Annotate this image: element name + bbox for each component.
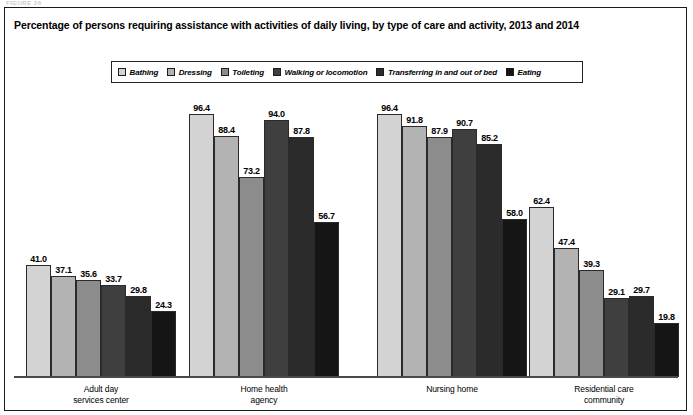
bar (76, 280, 101, 377)
bar (579, 270, 604, 377)
category-label-line: Adult day (31, 384, 171, 395)
bar (26, 265, 51, 377)
bar (427, 137, 452, 377)
bar-item: 94.0 (264, 92, 289, 377)
category-label-line: agency (194, 395, 334, 406)
bar-value-label: 96.4 (187, 103, 216, 113)
category-label-line: community (534, 395, 674, 406)
bar-item: 87.8 (289, 92, 314, 377)
bar-value-label: 41.0 (24, 254, 53, 264)
bar-value-label: 58.0 (500, 208, 529, 218)
bar-item: 62.4 (529, 92, 554, 377)
bar (529, 207, 554, 377)
bar-item: 29.7 (629, 92, 654, 377)
bar (604, 298, 629, 377)
legend-item: Walking or locomotion (273, 68, 367, 77)
bar-value-label: 62.4 (527, 196, 556, 206)
bar-item: 73.2 (239, 92, 264, 377)
bar (402, 126, 427, 377)
bar-item: 37.1 (51, 92, 76, 377)
figure-page: FIGURE 26 Percentage of persons requirin… (0, 0, 693, 415)
bar (452, 129, 477, 377)
bar-item: 87.9 (427, 92, 452, 377)
legend-item-label: Transferring in and out of bed (388, 68, 497, 77)
legend-item: Bathing (118, 68, 158, 77)
x-axis-line (14, 376, 678, 378)
bar-item: 56.7 (314, 92, 339, 377)
bar-item: 29.8 (126, 92, 151, 377)
bar-item: 39.3 (579, 92, 604, 377)
bar-value-label: 85.2 (475, 133, 504, 143)
bar (654, 323, 679, 377)
bar-value-label: 47.4 (552, 237, 581, 247)
bar (377, 114, 402, 377)
chart-plot-area: 41.037.135.633.729.824.396.488.473.294.0… (14, 92, 678, 377)
bar-item: 19.8 (654, 92, 679, 377)
bar-group: 41.037.135.633.729.824.3 (26, 92, 176, 377)
category-label: Home healthagency (194, 384, 334, 405)
bar-value-label: 39.3 (577, 259, 606, 269)
chart-legend: BathingDressingToiletingWalking or locom… (111, 61, 583, 83)
bar-value-label: 56.7 (312, 211, 341, 221)
bar-group: 96.488.473.294.087.856.7 (189, 92, 339, 377)
bar (289, 137, 314, 377)
bar (477, 144, 502, 377)
legend-swatch-icon (376, 68, 384, 76)
bar-item: 85.2 (477, 92, 502, 377)
bar (51, 276, 76, 377)
bar-value-label: 33.7 (99, 274, 128, 284)
bar (264, 120, 289, 377)
bar-item: 29.1 (604, 92, 629, 377)
legend-item: Eating (506, 68, 541, 77)
bar-value-label: 29.7 (627, 285, 656, 295)
legend-swatch-icon (273, 68, 281, 76)
legend-item-label: Dressing (179, 68, 212, 77)
bar-item: 58.0 (502, 92, 527, 377)
bar-item: 47.4 (554, 92, 579, 377)
bar-value-label: 19.8 (652, 312, 681, 322)
bar-value-label: 73.2 (237, 166, 266, 176)
bar-item: 88.4 (214, 92, 239, 377)
legend-swatch-icon (221, 68, 229, 76)
legend-item-label: Bathing (130, 68, 159, 77)
bar-value-label: 96.4 (375, 103, 404, 113)
bar (239, 177, 264, 377)
bar-value-label: 87.8 (287, 126, 316, 136)
bar (502, 219, 527, 377)
bar-item: 90.7 (452, 92, 477, 377)
category-label-line: services center (31, 395, 171, 406)
bar (214, 136, 239, 377)
bar-item: 96.4 (189, 92, 214, 377)
bar (101, 285, 126, 377)
bar-item: 24.3 (151, 92, 176, 377)
bar-item: 91.8 (402, 92, 427, 377)
legend-item-label: Toileting (232, 68, 264, 77)
category-label: Residential carecommunity (534, 384, 674, 405)
legend-swatch-icon (506, 68, 514, 76)
page-title: Percentage of persons requiring assistan… (14, 19, 674, 32)
category-label: Adult dayservices center (31, 384, 171, 405)
bar-value-label: 24.3 (149, 300, 178, 310)
bar-item: 41.0 (26, 92, 51, 377)
bar (314, 222, 339, 377)
bar-item: 96.4 (377, 92, 402, 377)
figure-number-label: FIGURE 26 (6, 0, 42, 7)
bar (151, 311, 176, 377)
legend-swatch-icon (167, 68, 175, 76)
bar-value-label: 29.8 (124, 285, 153, 295)
bar-item: 33.7 (101, 92, 126, 377)
legend-item-label: Walking or locomotion (284, 68, 367, 77)
category-label-line: Nursing home (382, 384, 522, 395)
legend-item: Toileting (221, 68, 264, 77)
legend-item-label: Eating (518, 68, 542, 77)
bar (126, 296, 151, 377)
bar-group: 62.447.439.329.129.719.8 (529, 92, 679, 377)
bar (554, 248, 579, 377)
category-label-line: Home health (194, 384, 334, 395)
bar-value-label: 90.7 (450, 118, 479, 128)
category-label-line: Residential care (534, 384, 674, 395)
bar (189, 114, 214, 377)
legend-swatch-icon (118, 68, 126, 76)
bar-value-label: 91.8 (400, 115, 429, 125)
bar-value-label: 94.0 (262, 109, 291, 119)
